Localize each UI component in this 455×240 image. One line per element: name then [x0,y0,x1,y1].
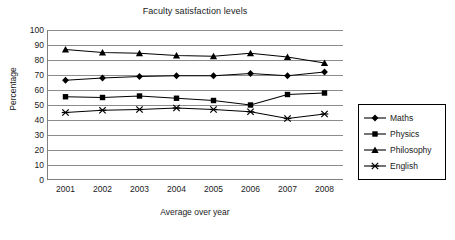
legend-item-english[interactable]: English [362,158,443,174]
chart-legend: MathsPhysicsPhilosophyEnglish [358,104,446,180]
y-axis-tick-label: 100 [30,26,44,35]
square-marker-icon [211,98,216,103]
data-point-physics-2008 [322,90,327,95]
x-axis-tick-label-2003: 2003 [130,184,149,194]
series-english [62,105,329,122]
square-marker-icon [372,131,377,136]
y-axis-title: Percentage [8,54,18,124]
legend-label-maths: Maths [388,113,413,123]
data-point-physics-2003 [137,93,142,98]
y-axis-tick-label: 70 [35,71,44,80]
square-marker-icon [372,131,377,136]
square-marker-icon [362,127,388,141]
square-marker-icon [100,95,105,100]
gridlines-group [47,31,343,181]
diamond-marker-icon [321,69,328,76]
diamond-marker-icon [372,115,379,122]
diamond-marker-icon [372,115,379,122]
y-axis-tick-label: 30 [35,131,44,140]
diamond-marker-icon [136,73,143,80]
x-axis-tick-label-2001: 2001 [56,184,75,194]
data-point-physics-2004 [174,96,179,101]
legend-item-philosophy[interactable]: Philosophy [362,142,443,158]
square-marker-icon [248,102,253,107]
chart-plot-svg [47,30,343,180]
data-point-english-2003 [136,106,144,112]
square-marker-icon [174,96,179,101]
y-axis-tick-label: 50 [35,101,44,110]
diamond-marker-icon [173,72,180,79]
data-point-physics-2005 [211,98,216,103]
y-axis-tick-label: 10 [35,161,44,170]
y-axis-tick-label: 0 [39,176,44,185]
legend-item-maths[interactable]: Maths [362,110,443,126]
y-axis-tick-label: 80 [35,56,44,65]
data-point-english-2008 [321,111,329,117]
legend-label-philosophy: Philosophy [388,145,432,155]
star-marker-icon [362,159,388,173]
data-point-maths-2003 [136,73,143,80]
diamond-marker-icon [62,77,69,84]
data-point-physics-2001 [63,94,68,99]
x-axis-tick-label-2006: 2006 [241,184,260,194]
x-axis-title: Average over year [47,207,343,217]
x-axis-tick-label-2008: 2008 [315,184,334,194]
data-point-english-2005 [210,106,218,112]
chart-title: Faculty satisfaction levels [40,6,350,16]
x-axis-tick-label-2005: 2005 [204,184,223,194]
data-point-english-2002 [99,107,107,113]
diamond-marker-icon [210,72,217,79]
series-maths [62,69,328,84]
square-marker-icon [137,93,142,98]
data-point-physics-2006 [248,102,253,107]
square-marker-icon [63,94,68,99]
legend-label-physics: Physics [388,129,419,139]
square-marker-icon [322,90,327,95]
diamond-marker-icon-svg [362,111,388,125]
y-axis-tick-label: 60 [35,86,44,95]
y-axis-tick-label: 20 [35,146,44,155]
legend-item-physics[interactable]: Physics [362,126,443,142]
data-point-maths-2005 [210,72,217,79]
y-axis-tick-label: 40 [35,116,44,125]
data-point-maths-2004 [173,72,180,79]
x-axis-tick-label-2007: 2007 [278,184,297,194]
x-axis-tick-label-2002: 2002 [93,184,112,194]
x-axis-tick-labels: 20012002200320042005200620072008 [47,184,343,198]
data-point-english-2001 [62,109,70,115]
triangle-marker-icon [362,143,388,157]
star-marker-icon [371,163,379,169]
triangle-marker-icon-svg [362,143,388,157]
data-point-physics-2007 [285,92,290,97]
star-marker-icon-svg [362,159,388,173]
diamond-marker-icon [284,72,291,79]
y-axis-tick-labels: 0102030405060708090100 [18,30,44,180]
square-marker-icon [285,92,290,97]
data-point-english-2006 [247,109,255,115]
chart-figure: Faculty satisfaction levels 010203040506… [0,0,455,240]
data-point-physics-2002 [100,95,105,100]
plot-area [47,30,343,180]
x-axis-tick-label-2004: 2004 [167,184,186,194]
y-axis-tick-label: 90 [35,41,44,50]
diamond-marker-icon [362,111,388,125]
series-philosophy [62,46,328,66]
square-marker-icon-svg [362,127,388,141]
legend-label-english: English [388,161,418,171]
data-point-maths-2008 [321,69,328,76]
data-point-maths-2007 [284,72,291,79]
data-point-maths-2001 [62,77,69,84]
